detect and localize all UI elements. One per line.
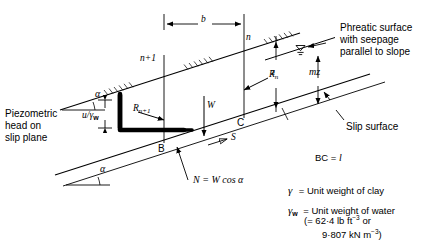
force-arrow-R-n bbox=[244, 78, 268, 90]
legend-gamma-row: γ = Unit weight of clay bbox=[288, 180, 384, 199]
legend-value1-post: or bbox=[360, 215, 371, 226]
annotation-phreatic-line3: parallel to slope bbox=[340, 46, 412, 58]
annotation-phreatic: Phreatic surface with seepage parallel t… bbox=[340, 22, 412, 57]
piezometric-block bbox=[120, 94, 192, 130]
label-gamma-subscript-w: w bbox=[93, 114, 98, 121]
label-u-over-gamma-w: u/γw bbox=[82, 104, 99, 123]
legend-gamma-w-subscript: w bbox=[292, 210, 297, 217]
legend-value1-exponent: −3 bbox=[352, 214, 359, 221]
legend-value2-pre: 9·807 kN m bbox=[322, 229, 371, 240]
label-S: S bbox=[231, 132, 236, 143]
annotation-phreatic-line1: Phreatic surface bbox=[340, 22, 412, 34]
legend-gamma-text: = Unit weight of clay bbox=[299, 185, 384, 196]
label-R-n-plus-1: Rn+1 bbox=[133, 103, 151, 115]
leader-N bbox=[177, 147, 188, 180]
label-n: n bbox=[246, 32, 251, 43]
label-n-plus-1: n+1 bbox=[140, 53, 156, 64]
dimension-u-over-gamma-w bbox=[98, 100, 112, 128]
label-N-equals: N = W cos α bbox=[193, 174, 243, 186]
legend-value2-post: ) bbox=[379, 229, 382, 240]
legend-gamma-symbol: γ bbox=[288, 184, 292, 196]
annotation-slip-surface: Slip surface bbox=[346, 121, 398, 133]
label-R-n-subscript: n bbox=[275, 73, 279, 81]
label-z: z bbox=[271, 66, 275, 78]
annotation-piezometric: Piezometric head on slip plane bbox=[5, 108, 57, 143]
label-W: W bbox=[207, 100, 215, 111]
slip-surface-lower-line bbox=[63, 82, 385, 186]
legend-value2-exponent: −3 bbox=[371, 228, 378, 235]
legend-gamma-w-value-line1: (= 62·4 lb ft−3 or bbox=[304, 214, 371, 226]
label-alpha-lower: α bbox=[100, 163, 105, 175]
annotation-phreatic-line2: with seepage bbox=[340, 34, 412, 46]
force-arrow-S bbox=[208, 139, 227, 145]
annotation-bc-equals: BC = l bbox=[315, 152, 342, 164]
diagram-canvas: b n n+1 Rn Rn+1 W z mz B C S α α u/γw N … bbox=[0, 0, 448, 245]
annotation-bc-symbol: l bbox=[339, 152, 342, 163]
annotation-piezometric-line1: Piezometric bbox=[5, 108, 57, 120]
label-B: B bbox=[158, 143, 165, 155]
legend-value1-pre: (= 62·4 lb ft bbox=[304, 215, 352, 226]
label-mz: mz bbox=[309, 66, 320, 78]
annotation-bc-text: BC = bbox=[315, 152, 339, 163]
annotation-piezometric-line3: slip plane bbox=[5, 132, 57, 144]
label-C: C bbox=[237, 117, 244, 129]
label-alpha-upper: α bbox=[95, 88, 100, 100]
label-b: b bbox=[201, 14, 206, 25]
label-R-n1-subscript: n+1 bbox=[139, 107, 151, 115]
annotation-piezometric-line2: head on bbox=[5, 120, 57, 132]
ground-hatching bbox=[104, 31, 293, 95]
legend-gamma-w-value-line2: 9·807 kN m−3) bbox=[322, 228, 382, 240]
